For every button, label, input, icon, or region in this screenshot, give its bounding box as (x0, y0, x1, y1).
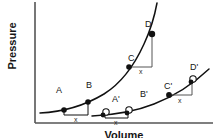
pressure-axis-title: Pressure (6, 10, 18, 82)
label-point-c-prime: C' (164, 82, 172, 91)
marker-point-a-prime (101, 113, 106, 118)
marker-point-a (61, 107, 67, 113)
label-interval-cd-prime: x (178, 97, 182, 104)
pressure-volume-figure: Pressure Volume A B C D A' B' C' D' x x … (0, 0, 213, 138)
marker-point-c (126, 64, 132, 70)
label-point-c: C (128, 54, 135, 63)
label-interval-ab-prime: x (114, 119, 118, 126)
label-interval-cd: x (139, 68, 143, 75)
label-point-a-prime: A' (112, 95, 120, 104)
label-interval-ab: x (74, 116, 78, 123)
volume-axis-title: Volume (35, 130, 213, 138)
marker-point-c-prime (166, 92, 172, 98)
marker-point-d-prime (189, 80, 194, 85)
plot-canvas (0, 0, 213, 138)
marker-point-d (149, 31, 155, 37)
marker-point-b (85, 99, 91, 105)
label-point-b: B (86, 81, 92, 90)
label-point-a: A (56, 86, 62, 95)
label-point-b-prime: B' (140, 90, 148, 99)
marker-point-b-prime (125, 111, 130, 116)
label-point-d: D (145, 20, 152, 29)
label-point-d-prime: D' (190, 63, 198, 72)
